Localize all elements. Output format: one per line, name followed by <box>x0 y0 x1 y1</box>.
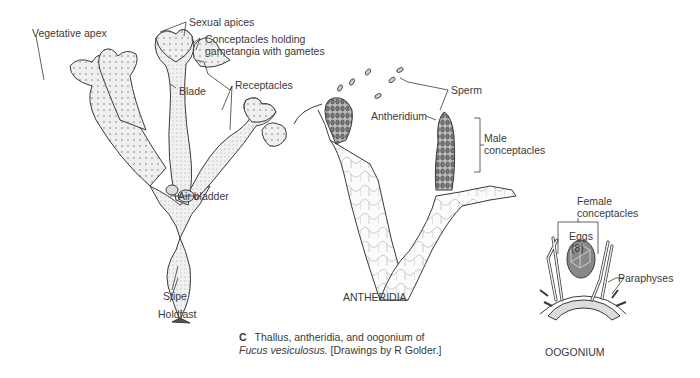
label-conceptacles-line2: gametangia with gametes <box>205 45 325 57</box>
caption-credit: [Drawings by R Golder.] <box>328 344 442 356</box>
sperm-cells <box>337 67 405 100</box>
label-antheridia-title: ANTHERIDIA <box>343 291 407 303</box>
label-air-bladder: Air bladder <box>178 190 229 202</box>
figure-caption-line1: CThallus, antheridia, and oogonium of <box>239 331 424 344</box>
label-blade: Blade <box>179 85 206 97</box>
label-eggs: Eggs <box>569 230 593 242</box>
caption-text: Thallus, antheridia, and oogonium of <box>255 331 425 343</box>
label-holdfast: Holdfast <box>158 308 197 320</box>
label-receptacles: Receptacles <box>235 79 293 91</box>
label-sexual-apices: Sexual apices <box>189 16 254 28</box>
label-stipe: Stipe <box>163 290 187 302</box>
fucus-illustration <box>0 0 700 378</box>
thallus-drawing <box>70 29 286 323</box>
label-oogonium-title: OOGONIUM <box>545 346 605 358</box>
label-male-line2: conceptacles <box>484 144 545 156</box>
label-eggs-count: (8) <box>571 242 584 254</box>
label-conceptacles-line1: Conceptacles holding <box>205 33 305 45</box>
antheridia-drawing <box>294 98 516 300</box>
label-paraphyses: Paraphyses <box>618 272 673 284</box>
label-sperm: Sperm <box>451 84 482 96</box>
figure-canvas: Vegetative apex Sexual apices Conceptacl… <box>0 0 700 378</box>
caption-species: Fucus vesiculosus. <box>239 344 328 356</box>
panel-letter: C <box>239 331 247 343</box>
figure-caption-line2: Fucus vesiculosus. [Drawings by R Golder… <box>239 344 442 357</box>
label-vegetative-apex: Vegetative apex <box>32 27 107 39</box>
label-female-line1: Female <box>577 195 612 207</box>
label-female-line2: conceptacles <box>577 207 638 219</box>
label-male-line1: Male <box>484 132 507 144</box>
label-antheridium: Antheridium <box>371 110 427 122</box>
